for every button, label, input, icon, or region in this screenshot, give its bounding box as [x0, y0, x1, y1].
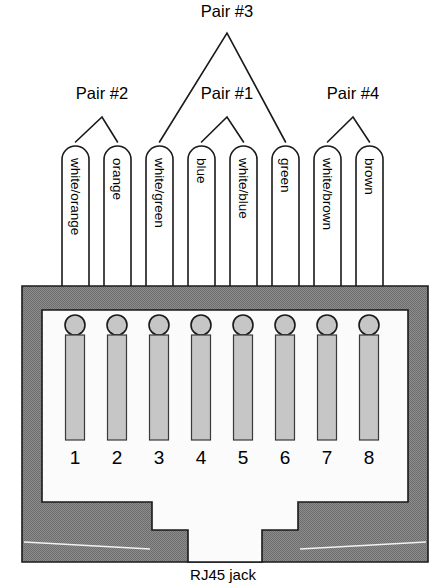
- wire-3: white/green: [146, 146, 173, 288]
- pin-blade-7: [318, 335, 337, 440]
- pair-bracket-1: [202, 117, 244, 142]
- wire-label-5: white/blue: [236, 157, 251, 219]
- wire-label-8: brown: [362, 158, 377, 195]
- wire-label-7: white/brown: [320, 157, 335, 230]
- pin-number-2: 2: [112, 447, 123, 468]
- wire-6: green: [272, 146, 299, 288]
- pair-bracket-2: [76, 117, 118, 142]
- pin-number-4: 4: [196, 447, 207, 468]
- wire-8: brown: [356, 146, 383, 288]
- pin-head-circle-1: [65, 315, 85, 335]
- pin-blade-5: [234, 335, 253, 440]
- diagram-canvas: Pair #2Pair #3Pair #1Pair #4 white/orang…: [0, 0, 447, 583]
- pin-head-circle-2: [107, 315, 127, 335]
- pair-label-3: Pair #3: [201, 2, 253, 20]
- rj45-pinout-diagram: Pair #2Pair #3Pair #1Pair #4 white/orang…: [0, 0, 447, 583]
- pair-leader-1: [76, 117, 118, 142]
- pin-number-8: 8: [364, 447, 375, 468]
- pin-number-1: 1: [70, 447, 81, 468]
- wire-label-4: blue: [194, 158, 209, 184]
- pair-leader-3: [202, 117, 244, 142]
- pin-head-circle-6: [275, 315, 295, 335]
- pair-bracket-4: [328, 117, 370, 142]
- pair-leader-4: [328, 117, 370, 142]
- pair-label-4: Pair #4: [327, 84, 379, 102]
- wires-group: white/orangeorangewhite/greenbluewhite/b…: [62, 146, 383, 288]
- pin-blade-3: [150, 335, 169, 440]
- wire-label-6: green: [278, 158, 293, 193]
- pin-blade-4: [192, 335, 211, 440]
- pin-head-circle-5: [233, 315, 253, 335]
- wire-label-3: white/green: [152, 157, 167, 228]
- pin-head-circle-4: [191, 315, 211, 335]
- pin-number-5: 5: [238, 447, 249, 468]
- pin-number-3: 3: [154, 447, 165, 468]
- pin-blade-2: [108, 335, 127, 440]
- wire-2: orange: [104, 146, 131, 288]
- pin-number-7: 7: [322, 447, 333, 468]
- wire-1: white/orange: [62, 146, 89, 288]
- pin-blade-1: [66, 335, 85, 440]
- pin-blade-6: [276, 335, 295, 440]
- pin-head-circle-3: [149, 315, 169, 335]
- wire-label-1: white/orange: [68, 157, 83, 235]
- pin-head-circle-7: [317, 315, 337, 335]
- pair-labels-group: Pair #2Pair #3Pair #1Pair #4: [76, 2, 379, 102]
- pair-label-2: Pair #2: [76, 84, 128, 102]
- wire-5: white/blue: [230, 146, 257, 288]
- wire-label-2: orange: [110, 158, 125, 200]
- diagram-caption: RJ45 jack: [190, 566, 256, 583]
- wire-4: blue: [188, 146, 215, 288]
- pin-head-circle-8: [359, 315, 379, 335]
- pin-number-6: 6: [280, 447, 291, 468]
- pin-blade-8: [360, 335, 379, 440]
- pair-label-1: Pair #1: [201, 84, 253, 102]
- wire-7: white/brown: [314, 146, 341, 288]
